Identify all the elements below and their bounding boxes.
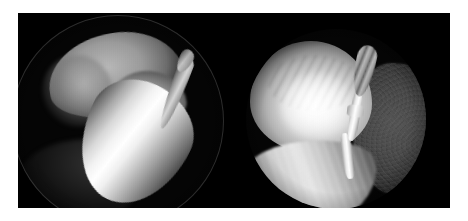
left-scope-field [18, 15, 224, 208]
figure-root [0, 0, 468, 221]
right-scope-field [246, 29, 426, 208]
right-endoscopic-view [234, 13, 450, 208]
left-endoscopic-view [18, 13, 234, 208]
right-instrument-band [346, 104, 364, 118]
image-plate [18, 13, 450, 208]
right-dome-highlight [280, 73, 352, 139]
